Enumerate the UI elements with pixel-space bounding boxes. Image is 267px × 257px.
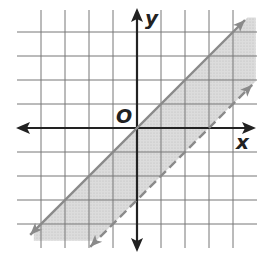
coordinate-plane bbox=[0, 0, 267, 257]
origin-label: O bbox=[116, 105, 132, 127]
y-axis-label: y bbox=[145, 6, 158, 30]
x-axis-label: x bbox=[236, 130, 249, 154]
shading bbox=[34, 18, 256, 241]
shaded-region bbox=[34, 18, 256, 241]
